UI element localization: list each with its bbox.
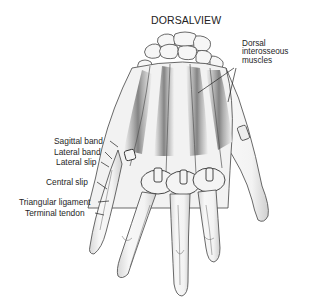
label-terminal-tendon: Terminal tendon: [25, 209, 85, 218]
label-sagittal-band: Sagittal band: [54, 137, 103, 146]
label-triangular-ligament: Triangular ligament: [19, 198, 90, 207]
label-central-slip: Central slip: [46, 178, 88, 187]
callout-line-3: muscles: [242, 57, 288, 65]
diagram-title: DORSALVIEW: [151, 14, 221, 26]
label-lateral-band: Lateral band: [54, 148, 101, 157]
callout-dorsal-interosseous: Dorsal interosseous muscles: [242, 40, 288, 65]
label-lateral-slip: Lateral slip: [56, 158, 97, 167]
